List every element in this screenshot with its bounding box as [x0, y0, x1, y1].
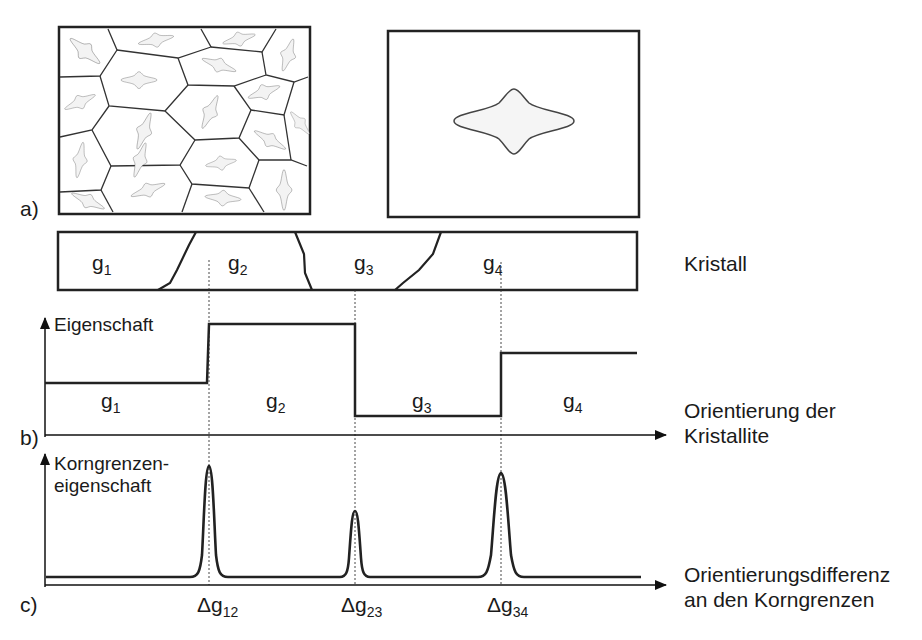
grain-g2: g2 [266, 389, 286, 416]
y-axis-label-eigenschaft: Eigenschaft [54, 314, 154, 335]
panel-a-label: a) [20, 197, 39, 220]
grain-g3: g3 [412, 389, 432, 416]
x-axis-label-orientierung-1: Orientierung der [684, 399, 836, 422]
property-step-line [45, 324, 637, 416]
x-axis-label-differenz-1: Orientierungsdifferenz [684, 563, 890, 586]
x-axis-label-differenz-2: an den Korngrenzen [684, 588, 874, 611]
single-crystal-box [388, 31, 639, 217]
grain-g4: g4 [563, 389, 583, 416]
tick-dg12: Δg12 [197, 593, 239, 620]
y-axis-label-korngrenzen-2: eigenschaft [54, 475, 152, 496]
crystal-bar: g1 g2 g3 g4 [58, 232, 637, 290]
boundary-guide-lines [209, 260, 501, 585]
panel-c-label: c) [20, 593, 38, 616]
tick-dg34: Δg34 [487, 593, 529, 620]
kristall-label: Kristall [684, 252, 747, 275]
y-axis-label-korngrenzen-1: Korngrenzen- [54, 453, 169, 474]
polycrystal-box [59, 27, 314, 215]
grain-g1: g1 [101, 389, 121, 416]
x-axis-label-orientierung-2: Kristallite [684, 424, 769, 447]
panel-c-chart: Korngrenzen- eigenschaft Δg12 Δg23 Δg34 [45, 453, 666, 620]
panel-b-label: b) [20, 426, 39, 449]
tick-dg23: Δg23 [341, 593, 383, 620]
panel-b-chart: Eigenschaft g1 g2 g3 g4 [45, 314, 666, 437]
grain-boundary-diagram: a) [0, 0, 922, 640]
